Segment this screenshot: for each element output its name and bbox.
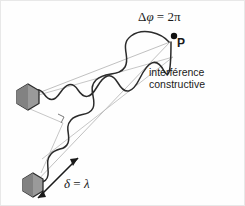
phase-difference-label: Δφ = 2π <box>138 10 181 25</box>
wave-lower <box>33 32 169 185</box>
phase-pi-symbol: π <box>174 9 181 24</box>
source-lower <box>23 173 43 197</box>
phase-phi-symbol: φ <box>146 9 153 24</box>
baseline-between-sources <box>30 109 63 123</box>
path-lambda-symbol: λ <box>84 176 90 191</box>
interference-caption: interférence constructive <box>149 67 205 91</box>
interference-caption-line2: constructive <box>149 79 205 91</box>
path-difference-label: δ = λ <box>64 177 90 192</box>
path-equals: = <box>70 176 84 191</box>
point-p-label: P <box>177 37 185 50</box>
figure-canvas <box>1 1 245 206</box>
interference-caption-line1: interférence <box>149 67 205 79</box>
interference-figure: Δφ = 2π P interférence constructive δ = … <box>0 0 245 206</box>
source-upper <box>17 84 39 110</box>
phase-equals: = 2 <box>154 9 174 24</box>
